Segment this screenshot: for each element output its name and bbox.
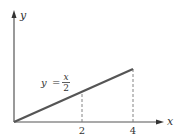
chart-svg: y x 2 4 y = x 2 bbox=[0, 0, 180, 140]
x-axis-label: x bbox=[167, 115, 174, 128]
y-axis-label: y bbox=[19, 9, 27, 22]
y-axis-arrow-icon bbox=[12, 10, 17, 18]
equation-denominator: 2 bbox=[63, 83, 69, 93]
x-axis-arrow-icon bbox=[156, 120, 164, 125]
tick-label-2: 2 bbox=[79, 125, 85, 136]
data-line-y-equals-x-over-2 bbox=[14, 69, 133, 122]
equation-lhs: y bbox=[40, 77, 47, 88]
equation-equals: = bbox=[52, 77, 60, 88]
equation-numerator: x bbox=[63, 72, 68, 82]
chart-figure: y x 2 4 y = x 2 bbox=[0, 0, 180, 140]
tick-label-4: 4 bbox=[130, 125, 136, 136]
